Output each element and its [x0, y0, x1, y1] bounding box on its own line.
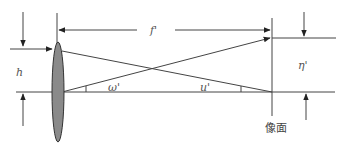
optical-diagram: f' h ω' u' 像面 η': [0, 0, 348, 150]
height-label: h: [16, 66, 23, 79]
image-plane-label: 像面: [265, 122, 287, 135]
focal-length-dimension: f': [59, 24, 270, 37]
chief-ray: [62, 38, 270, 92]
image-height-label: η': [298, 59, 308, 72]
converging-ray: [62, 51, 272, 92]
image-height-dimension: η': [298, 12, 308, 120]
focal-length-label: f': [149, 24, 157, 37]
field-angle-label: ω': [108, 81, 120, 94]
aperture-angle-label: u': [200, 81, 210, 94]
height-dimension: h: [16, 12, 23, 126]
lens: [52, 42, 64, 142]
